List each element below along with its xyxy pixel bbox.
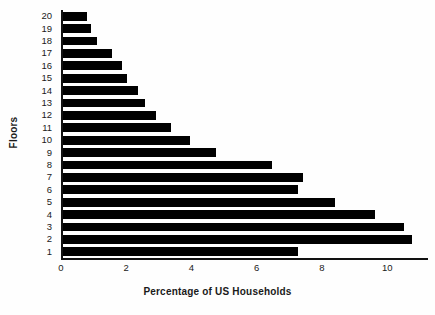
x-tick-label-2: 2 [124, 262, 129, 273]
chart-figure: Floors 2019181716151413121110987654321 0… [0, 0, 435, 315]
y-tick-label-4: 4 [47, 209, 52, 221]
y-tick-label-11: 11 [42, 122, 52, 134]
y-tick-label-5: 5 [47, 196, 52, 208]
x-tick-label-0: 0 [58, 262, 63, 273]
bar-floor-19 [63, 24, 91, 33]
bar-floor-16 [63, 61, 122, 70]
y-tick-label-6: 6 [47, 184, 52, 196]
y-tick-label-20: 20 [41, 10, 52, 22]
y-tick-label-16: 16 [41, 60, 52, 72]
y-axis-title: Floors [0, 0, 28, 265]
y-tick-label-15: 15 [41, 72, 52, 84]
x-tick-label-4: 4 [189, 262, 194, 273]
bar-floor-20 [63, 12, 87, 21]
y-tick-label-2: 2 [47, 233, 52, 245]
bar-floor-17 [63, 49, 112, 58]
bar-floor-9 [63, 148, 216, 157]
bar-floor-7 [63, 173, 303, 182]
y-tick-label-17: 17 [41, 47, 52, 59]
y-tick-label-3: 3 [47, 221, 52, 233]
x-axis-tick-labels: 0246810 [61, 262, 428, 278]
y-axis-tick-labels: 2019181716151413121110987654321 [28, 10, 56, 258]
bar-floor-3 [63, 223, 404, 232]
bar-floor-1 [63, 247, 298, 256]
plot-area [61, 10, 428, 258]
x-axis-line [61, 258, 428, 260]
bar-floor-10 [63, 136, 190, 145]
bar-floor-18 [63, 37, 97, 46]
bar-floor-13 [63, 99, 145, 108]
bar-floor-8 [63, 161, 272, 170]
bar-floor-6 [63, 185, 298, 194]
y-tick-label-1: 1 [47, 246, 52, 258]
y-tick-label-9: 9 [47, 147, 52, 159]
x-axis-title: Percentage of US Households [0, 286, 435, 297]
y-axis-line [61, 10, 63, 259]
bar-floor-11 [63, 123, 171, 132]
y-tick-label-12: 12 [41, 109, 52, 121]
bar-floor-14 [63, 86, 138, 95]
x-tick-label-8: 8 [319, 262, 324, 273]
y-tick-label-7: 7 [47, 171, 52, 183]
y-tick-label-8: 8 [47, 159, 52, 171]
bar-floor-12 [63, 111, 156, 120]
x-tick-label-10: 10 [382, 262, 393, 273]
y-tick-label-14: 14 [41, 85, 52, 97]
bar-floor-5 [63, 198, 335, 207]
y-tick-label-10: 10 [41, 134, 52, 146]
bar-floor-15 [63, 74, 127, 83]
y-tick-label-13: 13 [41, 97, 52, 109]
bar-floor-2 [63, 235, 412, 244]
y-tick-label-18: 18 [41, 35, 52, 47]
bar-floor-4 [63, 210, 375, 219]
y-tick-label-19: 19 [41, 23, 52, 35]
x-tick-label-6: 6 [254, 262, 259, 273]
y-axis-title-text: Floors [9, 117, 20, 149]
